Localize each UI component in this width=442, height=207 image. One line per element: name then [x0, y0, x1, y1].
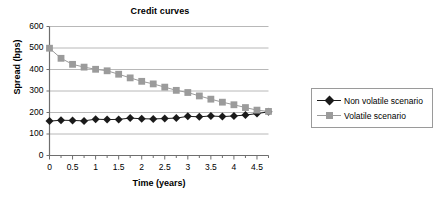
x-tick-label: 0 — [39, 162, 61, 172]
legend-marker-diamond-icon — [316, 94, 342, 107]
plot-area: 0100200300400500600 00.511.522.533.544.5 — [0, 0, 300, 185]
y-tick-label: 400 — [18, 64, 44, 74]
gridlines — [50, 27, 269, 156]
x-tick-label: 1 — [85, 162, 107, 172]
y-tick-label: 100 — [18, 128, 44, 138]
y-tick-label: 600 — [18, 21, 44, 31]
x-tick-label: 3 — [177, 162, 199, 172]
y-tick-label: 0 — [18, 150, 44, 160]
x-tick-label: 1.5 — [108, 162, 130, 172]
x-tick-label: 0.5 — [62, 162, 84, 172]
x-tick-marks — [50, 156, 269, 160]
x-tick-label: 4.5 — [246, 162, 268, 172]
y-tick-label: 500 — [18, 42, 44, 52]
legend-label-volatile: Volatile scenario — [342, 111, 406, 121]
y-tick-label: 200 — [18, 107, 44, 117]
x-tick-label: 2.5 — [154, 162, 176, 172]
x-tick-label: 2 — [131, 162, 153, 172]
y-tick-label: 300 — [18, 85, 44, 95]
x-tick-label: 3.5 — [200, 162, 222, 172]
x-tick-label: 4 — [223, 162, 245, 172]
chart-legend: Non volatile scenario Volatile scenario — [311, 88, 433, 128]
credit-curves-chart: Credit curves Spread (bps) Time (years) … — [0, 0, 442, 207]
data-series-layer — [46, 45, 273, 125]
plot-svg — [0, 0, 300, 185]
legend-item-volatile: Volatile scenario — [316, 108, 429, 123]
legend-item-non-volatile: Non volatile scenario — [316, 93, 429, 108]
legend-label-non-volatile: Non volatile scenario — [342, 96, 423, 106]
legend-marker-square-icon — [316, 109, 342, 122]
